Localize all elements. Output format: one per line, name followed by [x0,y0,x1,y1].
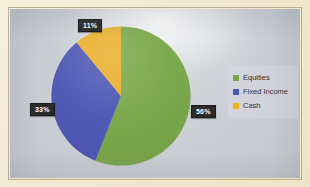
legend-swatch-fixed-income [233,89,239,95]
presentation-slide: 11% 33% 56% Equities Fixed Income Cash [10,9,300,178]
legend-item-cash[interactable]: Cash [233,99,294,113]
slide-photo-screenshot: 11% 33% 56% Equities Fixed Income Cash [0,0,310,187]
legend-label-cash: Cash [243,102,261,110]
legend-item-equities[interactable]: Equities [233,71,294,85]
pie-slices [51,26,190,165]
legend-item-fixed-income[interactable]: Fixed Income [233,85,294,99]
legend-swatch-cash [233,103,239,109]
data-label-equities: 56% [191,105,216,118]
pie-chart [50,25,192,167]
chart-legend: Equities Fixed Income Cash [228,66,298,118]
legend-swatch-equities [233,75,239,81]
data-label-fixed-income: 33% [30,103,55,116]
pie-chart-svg [50,25,192,167]
data-label-cash: 11% [78,19,102,32]
legend-label-fixed-income: Fixed Income [243,88,288,96]
legend-label-equities: Equities [243,74,270,82]
